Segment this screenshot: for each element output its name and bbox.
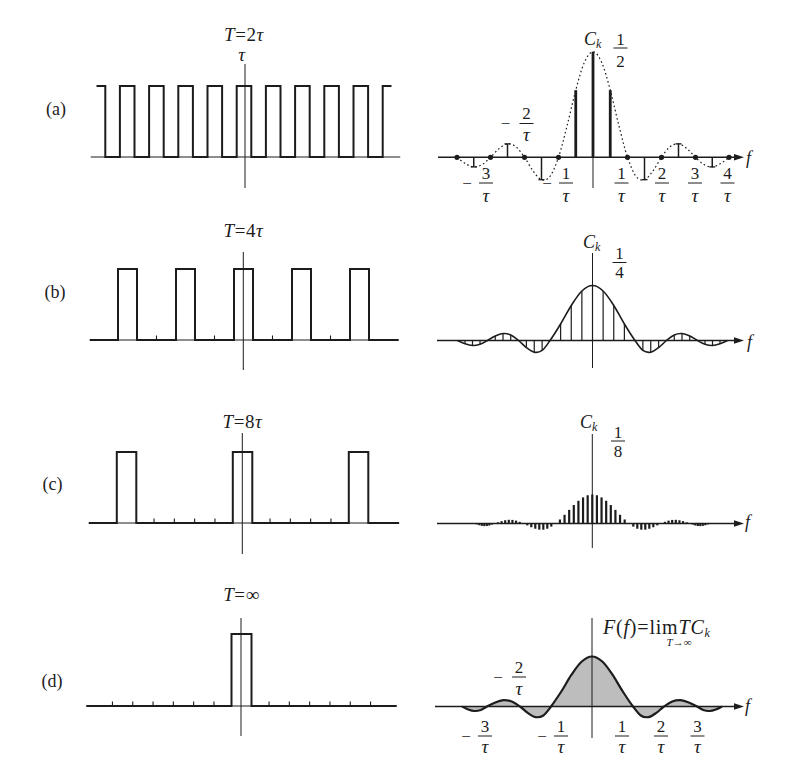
panel-d-spectrum-plot: F(f)=limTCkT→∞f3τ−2τ−1τ−1τ2τ3τ (435, 616, 753, 757)
frequency-tick-label-numerator: 3 (481, 717, 490, 736)
frequency-axis-label: f (745, 696, 753, 716)
zero-crossing-dot (693, 155, 698, 160)
frequency-tick-label-numerator: 2 (658, 164, 667, 183)
frequency-tick-label-denominator: τ (563, 185, 571, 206)
frequency-tick-label-numerator: 3 (482, 164, 491, 183)
panel-b-time-plot: T=4τ (90, 220, 399, 370)
frequency-tick-label-numerator: 2 (515, 658, 524, 677)
pulse-train-trace (90, 269, 399, 340)
coefficient-label-subscript: k (596, 37, 602, 51)
frequency-tick-label-numerator: 1 (562, 164, 571, 183)
frequency-tick-label-denominator: τ (558, 736, 566, 757)
frequency-tick-label-numerator: 1 (617, 164, 626, 183)
pulse-width-label: τ (238, 44, 246, 65)
period-title: T=8τ (223, 411, 264, 432)
frequency-tick-label-denominator: τ (516, 678, 524, 699)
frequency-tick-label-denominator: τ (658, 736, 666, 757)
frequency-tick-label-denominator: τ (618, 185, 626, 206)
fourier-transform-label-subscript: k (705, 626, 711, 640)
panel-d-time-plot: T=∞ (86, 584, 396, 736)
frequency-tick-label-denominator: τ (523, 124, 531, 145)
pulse-train-trace (89, 452, 399, 523)
panel-c-time-plot: T=8τ (89, 411, 399, 554)
frequency-axis-label: f (747, 332, 755, 352)
period-title-part: =8 (234, 411, 255, 432)
frequency-axis-arrowhead (734, 337, 744, 343)
figure-page: (a)(b)(c)(d)T=2ττT=4τT=8τT=∞Ck12f3τ−2τ−1… (0, 0, 787, 779)
frequency-tick-label-minus-sign: − (537, 727, 547, 746)
coefficient-label: Ck (584, 29, 602, 51)
period-title-part: =2 (235, 24, 256, 45)
peak-value-label-denominator: 2 (616, 52, 625, 71)
frequency-tick-label-numerator: 2 (657, 717, 666, 736)
fourier-transform-label-part: F (602, 616, 616, 638)
frequency-tick-label-numerator: 2 (522, 104, 531, 123)
panel-label-a: (a) (46, 99, 66, 120)
coefficient-label-subscript: k (595, 240, 601, 254)
panel-a-spectrum-plot: Ck12f3τ−2τ−1τ−1τ2τ3τ4τ (438, 29, 754, 206)
zero-crossing-dot (659, 155, 664, 160)
frequency-axis-arrowhead (734, 703, 744, 709)
period-title: T=2τ (224, 24, 265, 45)
frequency-tick-label-minus-sign: − (501, 114, 511, 133)
peak-value-label-numerator: 1 (616, 30, 625, 49)
zero-crossing-dot (625, 155, 630, 160)
zero-crossing-dot (726, 155, 731, 160)
panel-label-b: (b) (45, 282, 66, 303)
coefficient-label-subscript: k (592, 420, 598, 434)
panel-b-spectrum-plot: Ck14f (437, 232, 755, 368)
frequency-tick-label-denominator: τ (692, 185, 700, 206)
frequency-tick-label-minus-sign: − (542, 174, 552, 193)
panel-c-spectrum-plot: Ck18f (437, 412, 753, 548)
period-title: T=4τ (224, 220, 265, 241)
frequency-tick-label-numerator: 1 (557, 717, 566, 736)
zero-crossing-dot (556, 155, 561, 160)
period-title-part: =4 (235, 220, 256, 241)
frequency-tick-label-numerator: 3 (693, 717, 702, 736)
frequency-axis-arrowhead (734, 520, 744, 526)
frequency-tick-label-minus-sign: − (461, 727, 471, 746)
frequency-tick-label-denominator: τ (483, 185, 491, 206)
peak-value-label-denominator: 4 (615, 263, 624, 282)
frequency-tick-label-denominator: τ (724, 185, 732, 206)
fourier-transform-label-part: ( (616, 616, 623, 639)
period-title-part: τ (256, 220, 264, 241)
frequency-axis-label: f (745, 512, 753, 532)
frequency-tick-label-minus-sign: − (493, 668, 503, 687)
panel-label-c: (c) (43, 474, 63, 495)
frequency-tick-label-denominator: τ (694, 736, 702, 757)
coefficient-label: Ck (583, 232, 601, 254)
zero-crossing-dot (454, 155, 459, 160)
period-title-part: =∞ (234, 584, 259, 605)
fourier-pulse-train-figure: (a)(b)(c)(d)T=2ττT=4τT=8τT=∞Ck12f3τ−2τ−1… (0, 0, 787, 779)
fourier-transform-label-part: TC (678, 616, 704, 638)
frequency-tick-label-minus-sign: − (462, 174, 472, 193)
period-title: T=∞ (223, 584, 260, 605)
frequency-axis-arrowhead (734, 154, 744, 160)
panel-a-time-plot: T=2ττ (91, 24, 401, 188)
frequency-tick-label-denominator: τ (619, 736, 627, 757)
frequency-tick-label-denominator: τ (482, 736, 490, 757)
period-title-part: τ (255, 411, 263, 432)
period-title-part: τ (257, 24, 265, 45)
pulse-train-trace (97, 86, 392, 157)
peak-value-label-denominator: 8 (614, 442, 623, 461)
limit-subscript-label: T→∞ (667, 636, 692, 648)
coefficient-label: Ck (580, 412, 598, 434)
panel-label-d: (d) (42, 671, 63, 692)
zero-crossing-dot (488, 155, 493, 160)
frequency-axis-label: f (746, 148, 754, 168)
frequency-tick-label-numerator: 3 (691, 164, 700, 183)
peak-value-label-numerator: 1 (615, 244, 624, 263)
frequency-tick-label-numerator: 1 (618, 717, 627, 736)
zero-crossing-dot (522, 155, 527, 160)
frequency-tick-label-denominator: τ (659, 185, 667, 206)
peak-value-label-numerator: 1 (614, 423, 623, 442)
frequency-tick-label-numerator: 4 (723, 164, 732, 183)
fourier-transform-label: F(f)=limTCk (602, 616, 711, 640)
